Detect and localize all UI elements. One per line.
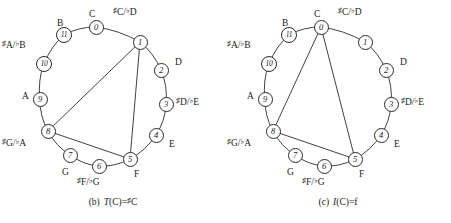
chord-edge — [273, 27, 321, 131]
pitch-class-node-11: 11 — [56, 27, 72, 43]
pitch-class-node-7: 7 — [288, 148, 303, 163]
pitch-class-node-9: 9 — [258, 92, 273, 107]
note-name-label-11: B — [282, 19, 288, 29]
note-name-label-2: D — [175, 58, 182, 68]
pitch-class-node-7: 7 — [63, 148, 78, 163]
pitch-class-node-1: 1 — [133, 35, 148, 50]
pitch-class-node-0: 0 — [89, 20, 104, 35]
caption-result: f — [354, 197, 357, 207]
pitch-class-node-1: 1 — [358, 35, 373, 50]
caption-tag: (c) — [319, 197, 330, 207]
pitch-class-node-8: 8 — [266, 124, 281, 139]
note-name-label-1: ♯C/♭D — [338, 8, 362, 18]
figure-pair-container: 01234567891011 C♯C/♭DD♯D/♭EEF♯F/♭GG♯G/♭A… — [0, 0, 451, 223]
pitch-class-node-11: 11 — [281, 27, 297, 43]
figure-caption-b: (b)T(C)=♯C — [0, 198, 226, 208]
figure-caption-c: (c)I(C)=f — [225, 198, 451, 208]
pitch-class-node-8: 8 — [41, 124, 56, 139]
pitch-class-node-5: 5 — [348, 152, 363, 167]
pitch-class-node-10: 10 — [261, 56, 277, 72]
pitch-class-node-5: 5 — [123, 152, 138, 167]
note-name-label-11: B — [57, 19, 63, 29]
pitch-class-node-3: 3 — [384, 97, 399, 112]
note-name-label-9: A — [247, 92, 254, 102]
note-name-label-0: C — [89, 10, 95, 20]
chord-edge — [48, 42, 140, 131]
chord-triangle-b — [48, 42, 140, 159]
note-name-label-5: F — [359, 170, 364, 180]
note-name-label-8: ♯G/♭A — [227, 139, 251, 149]
chord-edge — [321, 27, 355, 159]
figure-c: 01234567891011 C♯C/♭DD♯D/♭EEF♯F/♭GG♯G/♭A… — [225, 0, 451, 223]
ring-arcs-c — [264, 27, 391, 166]
caption-argument: (C) — [336, 197, 349, 207]
note-name-label-2: D — [400, 58, 407, 68]
note-name-label-3: ♯D/♭E — [176, 98, 199, 108]
pitch-class-node-6: 6 — [92, 159, 107, 174]
pitch-class-circle-c: 01234567891011 C♯C/♭DD♯D/♭EEF♯F/♭GG♯G/♭A… — [225, 0, 451, 195]
figure-b: 01234567891011 C♯C/♭DD♯D/♭EEF♯F/♭GG♯G/♭A… — [0, 0, 226, 223]
pitch-class-node-9: 9 — [33, 92, 48, 107]
note-name-label-5: F — [134, 170, 139, 180]
note-name-label-0: C — [314, 10, 320, 20]
note-name-label-7: G — [287, 168, 294, 178]
note-name-label-6: ♯F/♭G — [77, 178, 100, 188]
note-name-label-6: ♯F/♭G — [302, 178, 325, 188]
chord-triangle-c — [273, 27, 355, 159]
pitch-class-node-4: 4 — [374, 128, 389, 143]
note-name-label-10: ♯A/♭B — [2, 41, 26, 51]
note-name-label-3: ♯D/♭E — [401, 98, 424, 108]
caption-tag: (b) — [89, 197, 100, 207]
caption-result: C — [131, 197, 137, 207]
note-name-label-7: G — [62, 168, 69, 178]
pitch-class-node-6: 6 — [317, 159, 332, 174]
pitch-class-node-2: 2 — [379, 63, 394, 78]
caption-argument: (C) — [109, 197, 122, 207]
pitch-class-node-10: 10 — [36, 56, 52, 72]
note-name-label-4: E — [394, 140, 400, 150]
note-name-label-10: ♯A/♭B — [227, 41, 251, 51]
note-name-label-4: E — [169, 140, 175, 150]
pitch-class-node-3: 3 — [159, 97, 174, 112]
chord-edge — [273, 131, 355, 159]
note-name-label-1: ♯C/♭D — [113, 8, 137, 18]
note-name-label-8: ♯G/♭A — [2, 139, 26, 149]
ring-arcs-b — [39, 27, 166, 166]
pitch-class-node-0: 0 — [314, 20, 329, 35]
pitch-class-node-4: 4 — [149, 128, 164, 143]
note-name-label-9: A — [22, 92, 29, 102]
chord-edge — [48, 131, 130, 159]
pitch-class-node-2: 2 — [154, 63, 169, 78]
pitch-class-circle-b: 01234567891011 C♯C/♭DD♯D/♭EEF♯F/♭GG♯G/♭A… — [0, 0, 226, 195]
chord-edge — [130, 42, 140, 159]
